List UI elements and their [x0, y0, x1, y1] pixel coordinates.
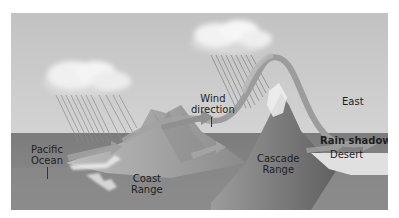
label-line: Range: [131, 184, 163, 195]
label-line: Cascade: [257, 153, 299, 164]
wind-direction-label: Wind direction: [191, 93, 235, 115]
label-line: Range: [257, 164, 299, 175]
pacific-ocean-leader: [47, 167, 48, 179]
label-line: Coast: [131, 173, 163, 184]
rain-shadow-diagram: Pacific Ocean Wind direction East Rain s…: [11, 13, 388, 210]
cascade-range-label: Cascade Range: [257, 153, 299, 175]
east-label: East: [342, 96, 364, 107]
rain-shadow-label: Rain shadow: [320, 135, 388, 146]
label-line: direction: [191, 104, 235, 115]
coast-range-label: Coast Range: [131, 173, 163, 195]
desert-label: Desert: [330, 149, 363, 160]
label-line: Wind: [191, 93, 235, 104]
wind-direction-leader: [211, 117, 212, 127]
label-line: Ocean: [31, 155, 63, 166]
pacific-ocean-label: Pacific Ocean: [31, 144, 63, 166]
label-line: Pacific: [31, 144, 63, 155]
